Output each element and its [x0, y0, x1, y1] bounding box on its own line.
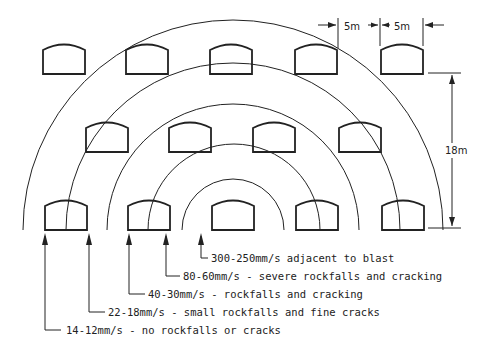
tunnel-row-1	[43, 45, 423, 75]
zone-label-80-60: 80-60mm/s - severe rockfalls and crackin…	[183, 270, 442, 282]
spacing-label-2: 5m	[394, 21, 410, 32]
arc-zone-300-250	[182, 179, 284, 230]
tunnel	[381, 45, 423, 75]
zone-label-300-250: 300-250mm/s adjacent to blast	[211, 252, 394, 264]
tunnel	[43, 45, 85, 75]
damage-zone-diagram: 5m 5m 18m 300-250mm/s adjacent to blast …	[0, 0, 486, 354]
tunnel	[212, 201, 254, 231]
tunnel	[86, 123, 128, 153]
tunnel	[382, 201, 424, 231]
arc-zone-80-60	[148, 144, 320, 230]
tunnel-row-2	[86, 123, 381, 153]
tunnel	[126, 45, 168, 75]
tunnel	[296, 201, 338, 231]
arc-zone-22-18	[66, 63, 400, 230]
tunnel	[339, 123, 381, 153]
spacing-label-1: 5m	[344, 21, 360, 32]
height-label: 18m	[445, 145, 467, 156]
tunnel-row-3	[45, 201, 424, 231]
arc-zone-40-30	[107, 104, 359, 230]
arc-zone-14-12	[23, 20, 443, 230]
spacing-dimension	[318, 18, 444, 48]
zone-label-22-18: 22-18mm/s - small rockfalls and fine cra…	[108, 306, 380, 318]
tunnel	[295, 45, 337, 75]
zone-label-40-30: 40-30mm/s - rockfalls and cracking	[148, 288, 363, 300]
tunnel	[210, 45, 252, 75]
damage-arcs	[23, 20, 443, 230]
tunnel	[169, 123, 211, 153]
zone-label-14-12: 14-12mm/s - no rockfalls or cracks	[66, 324, 281, 336]
